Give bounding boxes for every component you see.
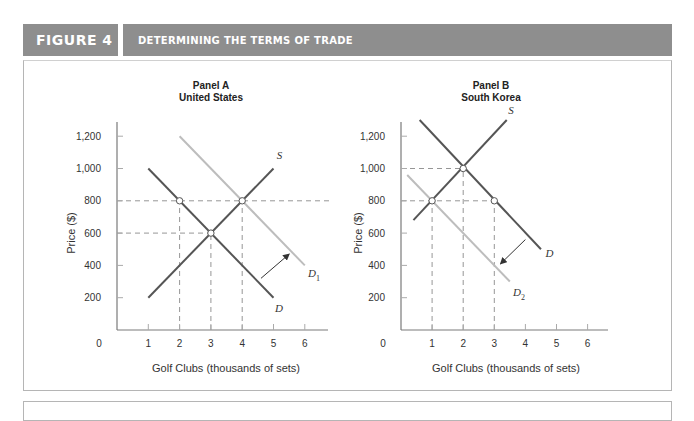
y-tick-label: 1,000 — [76, 163, 101, 174]
panel-b-subtitle: South Korea — [461, 92, 521, 103]
y-tick-label: 600 — [368, 228, 385, 239]
y-tick-label: 800 — [368, 195, 385, 206]
panel-a-x-axis-title: Golf Clubs (thousands of sets) — [152, 362, 300, 374]
curve-label-s: S — [508, 104, 514, 116]
x-tick-label: 1 — [429, 338, 435, 349]
x-tick-label: 4 — [523, 338, 529, 349]
y-tick-label: 1,200 — [360, 131, 385, 142]
y-tick-label: 200 — [368, 292, 385, 303]
curve-label-s: S — [277, 149, 283, 161]
y-tick-label: 400 — [84, 260, 101, 271]
panel-a-y-axis-title: Price ($) — [65, 212, 77, 254]
equilibrium-point-marker — [460, 165, 466, 171]
equilibrium-point-marker — [491, 198, 497, 204]
y-tick-label: 800 — [84, 195, 101, 206]
x-tick-label: 0 — [96, 338, 102, 349]
panel-a-subtitle: United States — [179, 92, 243, 103]
panel-a-equilibrium-points — [176, 198, 245, 237]
y-tick-label: 600 — [84, 228, 101, 239]
panel-a-chart: Panel A United States Price ($) Golf Clu… — [65, 80, 330, 374]
panel-b-x-axis-title: Golf Clubs (thousands of sets) — [432, 362, 580, 374]
x-tick-label: 6 — [585, 338, 591, 349]
equilibrium-point-marker — [239, 198, 245, 204]
x-tick-label: 3 — [208, 338, 214, 349]
y-tick-label: 200 — [84, 292, 101, 303]
panel-b-chart: Panel B South Korea Price ($) Golf Clubs… — [352, 80, 608, 374]
curve-label-d2: D2 — [512, 286, 525, 302]
x-tick-label: 5 — [554, 338, 560, 349]
y-tick-label: 400 — [368, 260, 385, 271]
panel-b-title: Panel B — [473, 80, 510, 91]
x-tick-label: 1 — [146, 338, 152, 349]
curve-label-d1: D1 — [307, 267, 320, 283]
panel-a-axes: 2004006008001,0001,2000123456 — [76, 122, 328, 349]
x-tick-label: 2 — [460, 338, 466, 349]
curve-d — [420, 120, 541, 249]
panel-b-axes: 2004006008001,0001,2000123456 — [360, 122, 608, 349]
equilibrium-point-marker — [429, 198, 435, 204]
x-tick-label: 6 — [302, 338, 308, 349]
curve-label-d: D — [545, 247, 554, 259]
demand-shift-arrow-icon — [501, 240, 526, 264]
x-tick-label: 2 — [177, 338, 183, 349]
x-tick-label: 3 — [492, 338, 498, 349]
demand-shift-arrow-icon — [261, 254, 289, 278]
curve-label-d: D — [274, 302, 283, 314]
x-tick-label: 5 — [271, 338, 277, 349]
x-tick-label: 4 — [239, 338, 245, 349]
panel-a-title: Panel A — [193, 80, 229, 91]
equilibrium-point-marker — [208, 230, 214, 236]
panel-b-guides — [401, 169, 494, 331]
equilibrium-point-marker — [176, 198, 182, 204]
y-tick-label: 1,200 — [76, 131, 101, 142]
x-tick-label: 0 — [380, 338, 386, 349]
y-tick-label: 1,000 — [360, 163, 385, 174]
panel-b-y-axis-title: Price ($) — [352, 212, 364, 254]
panel-a-curves: D1SD — [148, 136, 320, 314]
